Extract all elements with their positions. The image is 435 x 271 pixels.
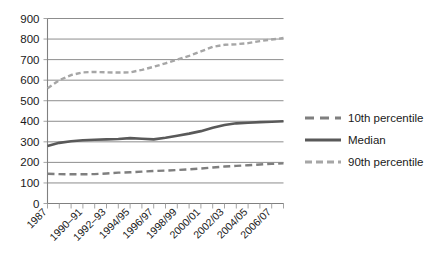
y-axis-tick-label: 900 bbox=[20, 13, 39, 25]
legend-item[interactable]: Median bbox=[305, 134, 386, 146]
data-series-group bbox=[48, 38, 284, 174]
chart-legend: 10th percentileMedian90th percentile bbox=[305, 112, 423, 168]
y-axis-tick-label: 800 bbox=[20, 33, 39, 45]
series-line-90th-percentile bbox=[48, 38, 284, 88]
legend-item[interactable]: 10th percentile bbox=[305, 112, 423, 124]
y-axis-labels-group: 0100200300400500600700800900 bbox=[20, 13, 47, 210]
percentile-line-chart: 0100200300400500600700800900 19871990–91… bbox=[0, 0, 435, 271]
y-axis-tick-label: 500 bbox=[20, 95, 39, 107]
y-axis-tick-label: 200 bbox=[20, 156, 39, 168]
legend-label: Median bbox=[348, 134, 386, 146]
legend-label: 90th percentile bbox=[348, 156, 423, 168]
y-axis-tick-label: 300 bbox=[20, 136, 39, 148]
chart-container: 0100200300400500600700800900 19871990–91… bbox=[0, 0, 435, 271]
gridlines-group bbox=[48, 19, 284, 204]
y-axis-tick-label: 700 bbox=[20, 54, 39, 66]
legend-label: 10th percentile bbox=[348, 112, 423, 124]
y-axis-tick-label: 100 bbox=[20, 177, 39, 189]
x-axis-labels-group: 19871990–911992–931994/951996/971998/992… bbox=[24, 205, 273, 243]
x-axis-tickmarks-group bbox=[48, 204, 284, 209]
series-line-10th-percentile bbox=[48, 163, 284, 174]
x-axis-tick-label: 1987 bbox=[24, 205, 49, 230]
legend-item[interactable]: 90th percentile bbox=[305, 156, 423, 168]
y-axis-tick-label: 400 bbox=[20, 115, 39, 127]
y-axis-tick-label: 600 bbox=[20, 74, 39, 86]
